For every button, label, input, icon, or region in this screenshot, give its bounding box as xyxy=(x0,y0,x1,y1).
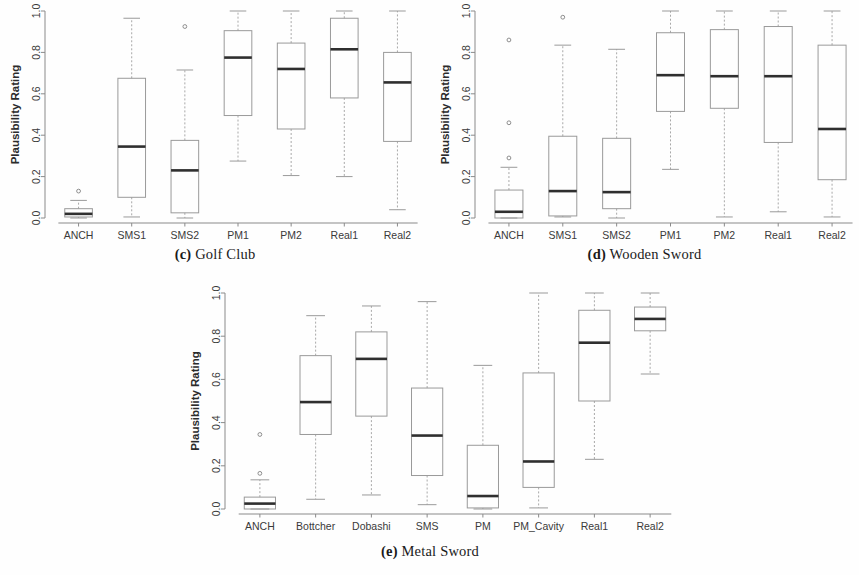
boxplot-group xyxy=(579,293,610,459)
box-iqr xyxy=(171,140,199,212)
y-tick-label: 0.8 xyxy=(210,329,222,344)
outlier-point xyxy=(507,38,511,42)
panel-golf-club: 0.00.20.40.60.81.0Plausibility RatingANC… xyxy=(0,0,430,275)
boxplot-group xyxy=(384,11,412,210)
boxplot-group xyxy=(244,433,275,509)
box-iqr xyxy=(549,136,577,216)
y-tick-label: 1.0 xyxy=(30,4,42,19)
x-tick-label: Real1 xyxy=(331,229,359,241)
boxplot-group xyxy=(330,11,358,177)
y-tick-label: 0.6 xyxy=(460,86,472,101)
x-tick-label: ANCH xyxy=(245,520,275,532)
y-tick-label: 0.6 xyxy=(30,86,42,101)
outlier-point xyxy=(258,433,262,437)
box-iqr xyxy=(356,332,387,416)
x-tick-label: PM xyxy=(475,520,491,532)
x-tick-label: SMS xyxy=(416,520,439,532)
box-iqr xyxy=(412,388,443,475)
x-tick-label: PM2 xyxy=(714,229,736,241)
y-tick-label: 0.8 xyxy=(30,45,42,60)
caption-text-golf-club: Golf Club xyxy=(195,246,255,262)
boxplot-group xyxy=(549,15,577,217)
y-tick-label: 0.2 xyxy=(30,169,42,184)
figure-boxplot-panels: 0.00.20.40.60.81.0Plausibility RatingANC… xyxy=(0,0,859,575)
boxplot-group xyxy=(224,11,252,161)
caption-golf-club: (c) Golf Club xyxy=(0,246,430,263)
x-tick-label: SMS2 xyxy=(602,229,631,241)
boxplot-group xyxy=(603,49,631,218)
boxplot-group xyxy=(818,11,846,217)
x-tick-label: ANCH xyxy=(64,229,94,241)
panel-wooden-sword: 0.00.20.40.60.81.0Plausibility RatingANC… xyxy=(430,0,859,275)
x-tick-label: Real2 xyxy=(818,229,846,241)
x-tick-label: SMS2 xyxy=(171,229,200,241)
outlier-point xyxy=(561,15,565,19)
outlier-point xyxy=(258,471,262,475)
y-tick-label: 0.8 xyxy=(460,45,472,60)
boxplot-group xyxy=(277,11,305,176)
x-tick-label: SMS1 xyxy=(117,229,146,241)
box-iqr xyxy=(764,27,792,143)
outlier-point xyxy=(183,25,187,29)
y-tick-label: 0.6 xyxy=(210,372,222,387)
box-iqr xyxy=(118,78,146,197)
y-tick-label: 1.0 xyxy=(460,4,472,19)
outlier-point xyxy=(77,189,81,193)
box-iqr xyxy=(384,52,412,141)
y-tick-label: 0.4 xyxy=(30,128,42,143)
box-iqr xyxy=(579,310,610,401)
caption-marker-golf-club: (c) xyxy=(175,246,192,262)
box-iqr xyxy=(330,18,358,98)
boxplot-group xyxy=(356,306,387,495)
y-tick-label: 0.2 xyxy=(210,458,222,473)
y-tick-label: 0.4 xyxy=(460,128,472,143)
boxplot-group xyxy=(412,302,443,505)
box-iqr xyxy=(656,33,684,112)
x-tick-label: PM1 xyxy=(660,229,682,241)
x-tick-label: PM2 xyxy=(280,229,302,241)
outlier-point xyxy=(507,121,511,125)
caption-wooden-sword: (d) Wooden Sword xyxy=(430,246,859,263)
caption-marker-wooden-sword: (d) xyxy=(588,246,606,262)
y-tick-label: 0.4 xyxy=(210,415,222,430)
x-tick-label: Real2 xyxy=(384,229,412,241)
boxplot-group xyxy=(467,365,498,509)
x-tick-label: SMS1 xyxy=(548,229,577,241)
boxplot-group xyxy=(495,38,523,218)
outlier-point xyxy=(507,156,511,160)
boxplot-group xyxy=(171,25,199,218)
box-iqr xyxy=(277,43,305,129)
boxplot-group xyxy=(656,11,684,169)
x-tick-label: PM1 xyxy=(227,229,249,241)
x-tick-label: Real1 xyxy=(581,520,609,532)
box-iqr xyxy=(818,45,846,180)
boxplot-group xyxy=(118,18,146,217)
caption-metal-sword: (e) Metal Sword xyxy=(180,543,680,560)
y-axis-title: Plausibility Rating xyxy=(189,351,201,451)
y-tick-label: 0.0 xyxy=(460,211,472,226)
box-iqr xyxy=(603,138,631,208)
boxplot-group xyxy=(523,293,554,508)
box-iqr xyxy=(224,31,252,116)
caption-text-metal-sword: Metal Sword xyxy=(402,543,480,559)
y-tick-label: 0.2 xyxy=(460,169,472,184)
caption-text-wooden-sword: Wooden Sword xyxy=(610,246,702,262)
box-iqr xyxy=(300,356,331,435)
plot-golf-club: 0.00.20.40.60.81.0Plausibility RatingANC… xyxy=(0,0,430,246)
box-iqr xyxy=(495,190,523,218)
y-axis-title: Plausibility Rating xyxy=(439,65,451,165)
boxplot-group xyxy=(65,189,93,218)
x-tick-label: Real1 xyxy=(764,229,792,241)
x-tick-label: Dobashi xyxy=(352,520,391,532)
y-tick-label: 1.0 xyxy=(210,286,222,301)
caption-marker-metal-sword: (e) xyxy=(381,543,398,559)
box-iqr xyxy=(710,30,738,109)
x-tick-label: ANCH xyxy=(494,229,524,241)
boxplot-group xyxy=(764,11,792,212)
x-tick-label: Real2 xyxy=(636,520,664,532)
plot-wooden-sword: 0.00.20.40.60.81.0Plausibility RatingANC… xyxy=(430,0,859,246)
x-tick-label: PM_Cavity xyxy=(513,520,565,532)
box-iqr xyxy=(523,373,554,487)
boxplot-group xyxy=(710,11,738,217)
x-tick-label: Bottcher xyxy=(296,520,336,532)
